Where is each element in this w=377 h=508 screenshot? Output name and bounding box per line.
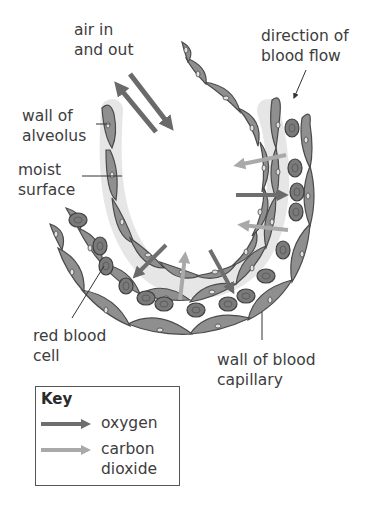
label-line: direction of [261, 26, 349, 46]
label-line: capillary [217, 370, 316, 390]
label-line: and out [74, 40, 133, 60]
label-line: blood flow [261, 46, 349, 66]
label-air-in-out: air in and out [74, 20, 133, 60]
label-moist-surface: moist surface [18, 160, 75, 200]
carbon-dioxide-arrow-icon [41, 443, 93, 457]
key-item-carbon-dioxide: carbon dioxide [41, 439, 157, 479]
key-label-line: dioxide [101, 459, 157, 479]
key-label-oxygen: oxygen [101, 413, 158, 433]
label-line: red blood [33, 326, 106, 346]
label-line: surface [18, 180, 75, 200]
air-arrows [118, 74, 170, 132]
label-line: wall of [22, 106, 86, 126]
key-title: Key [41, 390, 72, 408]
label-line: wall of blood [217, 350, 316, 370]
label-line: alveolus [22, 126, 86, 146]
label-line: moist [18, 160, 75, 180]
label-red-blood-cell: red blood cell [33, 326, 106, 366]
key-item-oxygen: oxygen [41, 413, 158, 433]
label-line: cell [33, 346, 106, 366]
label-wall-of-alveolus: wall of alveolus [22, 106, 86, 146]
key-label-carbon-dioxide: carbon dioxide [101, 439, 157, 479]
key-legend: Key oxygen carbon dioxide [35, 386, 180, 486]
label-wall-of-blood-capillary: wall of blood capillary [217, 350, 316, 390]
key-label-line: carbon [101, 439, 157, 459]
label-line: air in [74, 20, 133, 40]
oxygen-arrow-icon [41, 417, 93, 431]
label-direction-of-blood-flow: direction of blood flow [261, 26, 349, 66]
